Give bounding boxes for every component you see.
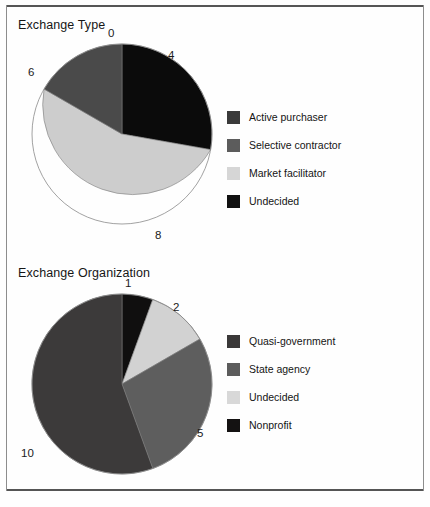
legend-item-market-facilitator: Market facilitator (227, 166, 341, 180)
pie-slice-active-purchaser (122, 44, 212, 150)
figure-container: Exchange Type 0 4 8 6 Active purchaser (0, 0, 430, 507)
pie-value-label-market-facilitator-8: 8 (155, 230, 161, 242)
legend-label-market-facilitator: Market facilitator (249, 168, 326, 179)
pie-value-label-nonprofit-1: 1 (125, 278, 131, 290)
legend-exchange-type: Active purchaser Selective contractor Ma… (227, 110, 341, 208)
legend-swatch-market-facilitator (227, 167, 240, 180)
pie-value-label-selective-contractor-6: 6 (28, 67, 34, 79)
pie-chart-exchange-organization (32, 292, 212, 476)
legend-label-state-agency: State agency (249, 364, 310, 375)
legend-label-undecided: Undecided (249, 196, 299, 207)
legend-label-active-purchaser: Active purchaser (249, 112, 327, 123)
pie-value-label-undecided-0: 0 (108, 28, 114, 40)
legend-item-selective-contractor: Selective contractor (227, 138, 341, 152)
legend-swatch-quasi-government (227, 335, 240, 348)
pie-value-label-state-agency-5: 5 (197, 428, 203, 440)
chart-panel-exchange-organization: Exchange Organization 1 2 5 10 Qua (0, 258, 430, 490)
legend-item-undecided: Undecided (227, 390, 335, 404)
pie-value-label-undecided-2: 2 (173, 302, 179, 314)
legend-item-active-purchaser: Active purchaser (227, 110, 341, 124)
pie-chart-exchange-type (32, 42, 212, 226)
legend-swatch-active-purchaser (227, 111, 240, 124)
frame-rule-top (6, 5, 424, 7)
legend-item-undecided: Undecided (227, 194, 341, 208)
legend-label-undecided: Undecided (249, 392, 299, 403)
legend-label-quasi-government: Quasi-government (249, 336, 335, 347)
legend-swatch-state-agency (227, 363, 240, 376)
chart-title-exchange-type: Exchange Type (18, 18, 105, 32)
legend-swatch-nonprofit (227, 419, 240, 432)
legend-swatch-undecided (227, 195, 240, 208)
pie-value-label-active-purchaser-4: 4 (168, 50, 174, 62)
legend-item-state-agency: State agency (227, 362, 335, 376)
legend-swatch-undecided (227, 391, 240, 404)
legend-item-quasi-government: Quasi-government (227, 334, 335, 348)
chart-panel-exchange-type: Exchange Type 0 4 8 6 Active purchaser (0, 10, 430, 255)
legend-label-nonprofit: Nonprofit (249, 420, 292, 431)
legend-label-selective-contractor: Selective contractor (249, 140, 341, 151)
legend-exchange-organization: Quasi-government State agency Undecided … (227, 334, 335, 432)
legend-item-nonprofit: Nonprofit (227, 418, 335, 432)
legend-swatch-selective-contractor (227, 139, 240, 152)
pie-value-label-quasi-government-10: 10 (21, 448, 34, 460)
